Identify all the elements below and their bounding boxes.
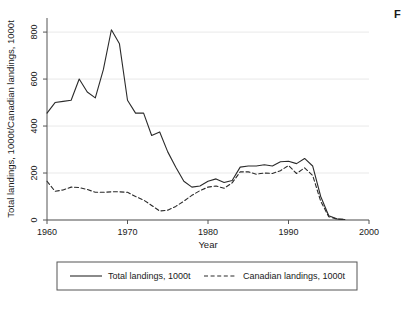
y-tick-label: 200 bbox=[29, 166, 39, 181]
landings-line-chart: 0200400600800 19601970198019902000 Total… bbox=[0, 0, 403, 313]
y-tick-label: 600 bbox=[29, 72, 39, 87]
x-tick-label: 1980 bbox=[198, 227, 218, 237]
y-tick-label: 800 bbox=[29, 25, 39, 40]
x-tick-label: 1990 bbox=[278, 227, 298, 237]
y-tick-label: 400 bbox=[29, 119, 39, 134]
y-tick-label: 0 bbox=[29, 217, 39, 222]
x-tick-label: 1960 bbox=[37, 227, 57, 237]
legend-label-total-landings: Total landings, 1000t bbox=[108, 271, 191, 281]
y-axis-ticks bbox=[43, 32, 47, 220]
y-axis-tick-labels: 0200400600800 bbox=[29, 25, 39, 223]
y-axis-title: Total landings, 1000t/Canadian landings,… bbox=[5, 20, 16, 218]
x-axis-tick-labels: 19601970198019902000 bbox=[37, 227, 379, 237]
x-tick-label: 2000 bbox=[359, 227, 379, 237]
legend-label-canadian-landings: Canadian landings, 1000t bbox=[243, 271, 346, 281]
x-tick-label: 1970 bbox=[117, 227, 137, 237]
x-axis-ticks bbox=[47, 220, 369, 224]
x-axis-title: Year bbox=[198, 239, 217, 250]
figure-container: F 0200400600800 19601970198019902000 Tot… bbox=[0, 0, 403, 313]
plot-background bbox=[47, 18, 369, 220]
